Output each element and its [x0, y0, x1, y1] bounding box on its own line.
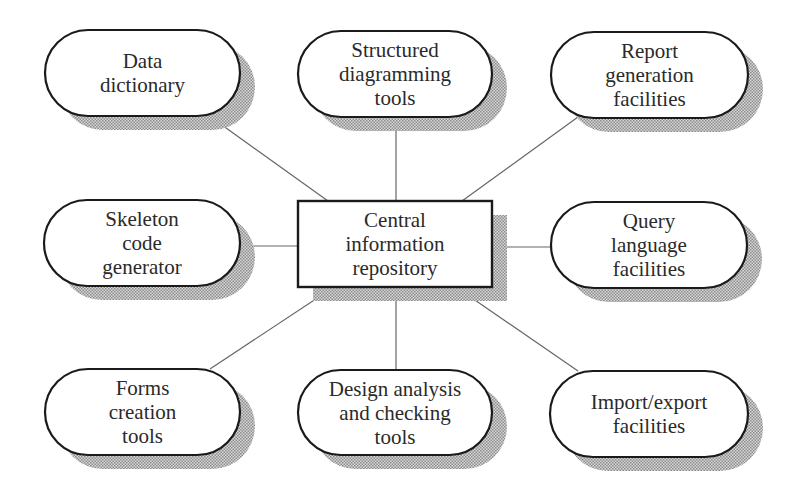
node-label-line: Data — [123, 49, 163, 73]
node-shapes: DatadictionaryStructureddiagrammingtools… — [44, 30, 748, 457]
data-dictionary-node: Datadictionary — [45, 30, 240, 116]
node-label-line: generator — [102, 255, 181, 279]
diagram-canvas: DatadictionaryStructureddiagrammingtools… — [0, 0, 797, 494]
node-label-line: tools — [122, 424, 163, 448]
node-label-line: Report — [621, 39, 678, 63]
connector-line — [208, 115, 328, 201]
report-generation-facilities-node: Reportgenerationfacilities — [551, 32, 748, 118]
node-label-line: facilities — [613, 257, 685, 281]
node-label-line: facilities — [613, 87, 685, 111]
node-label-line: repository — [352, 256, 438, 280]
structured-diagramming-tools-node: Structureddiagrammingtools — [298, 31, 492, 117]
node-label-line: Design analysis — [329, 377, 461, 401]
forms-creation-tools-node: Formscreationtools — [45, 369, 240, 455]
query-language-facilities-node: Querylanguagefacilities — [551, 202, 747, 288]
node-label-line: dictionary — [100, 73, 186, 97]
node-label-line: Skeleton — [105, 207, 179, 231]
import-export-facilities-node: Import/exportfacilities — [550, 371, 748, 457]
node-label-line: Structured — [351, 38, 439, 62]
node-label-line: information — [345, 232, 445, 256]
node-label-line: generation — [605, 63, 694, 87]
node-label-line: language — [611, 233, 687, 257]
connector-line — [462, 117, 578, 201]
node-label-line: code — [122, 231, 162, 255]
node-label-line: and checking — [339, 401, 451, 425]
node-label-line: creation — [109, 400, 177, 424]
node-label-line: Central — [364, 208, 426, 232]
node-label-line: Forms — [116, 376, 170, 400]
node-label-line: facilities — [613, 414, 685, 438]
central-repository-node: Centralinformationrepository — [298, 201, 492, 287]
design-analysis-checking-tools-node: Design analysisand checkingtools — [298, 370, 492, 455]
node-label-line: tools — [375, 425, 416, 449]
node-label-line: diagramming — [339, 62, 451, 86]
node-label-line: tools — [375, 86, 416, 110]
node-label-line: Import/export — [591, 390, 708, 414]
skeleton-code-generator-node: Skeletoncodegenerator — [44, 200, 240, 286]
node-label-line: Query — [623, 209, 676, 233]
